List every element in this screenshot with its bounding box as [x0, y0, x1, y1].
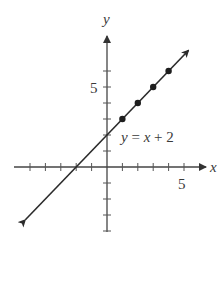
y-tick-label-5: 5 — [90, 80, 98, 96]
equation-label: y = x + 2 — [119, 129, 174, 145]
data-point — [119, 116, 125, 122]
x-tick-label-5: 5 — [178, 176, 186, 192]
data-point — [150, 84, 156, 90]
coordinate-plane: y x 5 5 y = x + 2 — [0, 0, 222, 296]
data-point — [135, 100, 141, 106]
x-axis-label: x — [209, 159, 217, 175]
data-point — [165, 68, 171, 74]
y-axis-label: y — [101, 11, 110, 27]
